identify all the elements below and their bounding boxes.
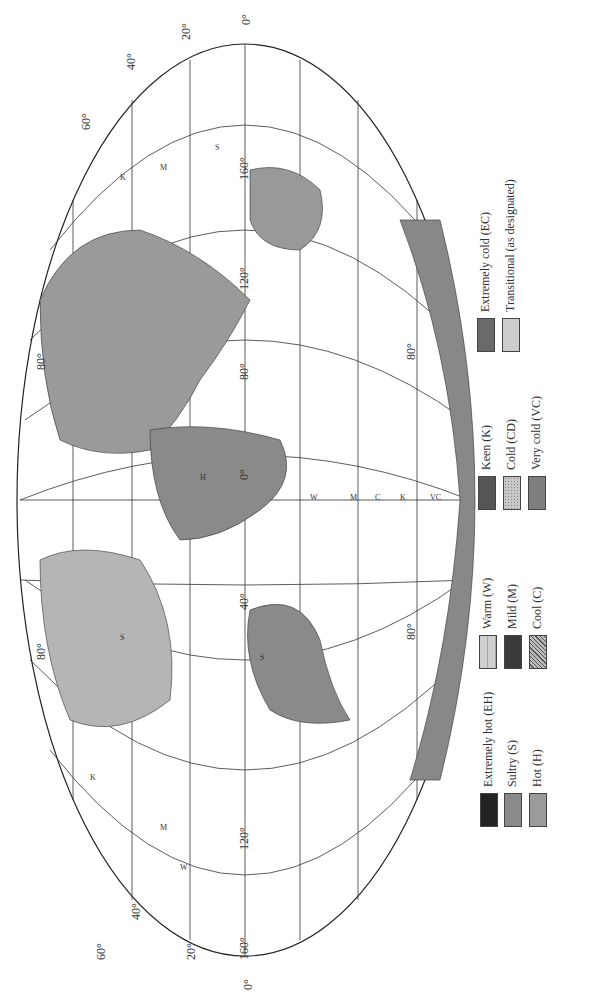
- south-america: [248, 604, 351, 723]
- svg-text:60°: 60°: [94, 943, 108, 960]
- svg-text:K: K: [400, 493, 406, 502]
- svg-text:K: K: [90, 773, 96, 782]
- svg-text:160°: 160°: [237, 937, 251, 960]
- svg-text:S: S: [120, 633, 124, 642]
- north-america: [40, 550, 172, 727]
- eurasia: [40, 230, 250, 453]
- svg-text:20°: 20°: [179, 23, 193, 40]
- africa: [150, 427, 287, 540]
- svg-text:W: W: [180, 863, 188, 872]
- svg-text:H: H: [200, 473, 206, 482]
- svg-text:M: M: [350, 493, 357, 502]
- land-masses: [40, 168, 475, 781]
- svg-text:0°: 0°: [239, 14, 253, 25]
- svg-text:M: M: [160, 163, 167, 172]
- svg-text:M: M: [160, 823, 167, 832]
- svg-text:120°: 120°: [237, 267, 251, 290]
- svg-text:40°: 40°: [124, 53, 138, 70]
- world-climate-map: 160° 120° 80° 0° 40° 120° 160° 60° 40° 2…: [0, 0, 589, 997]
- svg-text:C: C: [375, 493, 380, 502]
- svg-text:80°: 80°: [404, 623, 418, 640]
- svg-text:40°: 40°: [237, 593, 251, 610]
- svg-text:60°: 60°: [79, 113, 93, 130]
- svg-text:0°: 0°: [241, 979, 255, 990]
- svg-text:S: S: [215, 143, 219, 152]
- svg-text:80°: 80°: [34, 353, 48, 370]
- svg-text:20°: 20°: [184, 943, 198, 960]
- svg-text:W: W: [310, 493, 318, 502]
- svg-text:S: S: [260, 653, 264, 662]
- svg-text:0°: 0°: [237, 469, 251, 480]
- svg-text:160°: 160°: [237, 157, 251, 180]
- svg-text:120°: 120°: [237, 827, 251, 850]
- svg-text:40°: 40°: [129, 903, 143, 920]
- svg-text:VC: VC: [430, 493, 441, 502]
- australia: [250, 168, 323, 251]
- svg-text:80°: 80°: [34, 643, 48, 660]
- svg-text:K: K: [120, 173, 126, 182]
- svg-text:80°: 80°: [404, 343, 418, 360]
- svg-text:80°: 80°: [237, 363, 251, 380]
